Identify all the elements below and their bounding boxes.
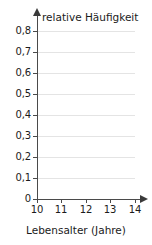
y-tick-mark-0.2 [33, 157, 37, 158]
x-tick-mark-12 [86, 199, 87, 203]
gridline-0.8 [37, 31, 135, 32]
x-axis-arrow-icon [140, 195, 148, 203]
gridline-0.5 [37, 94, 135, 95]
y-axis-title: relative Häufigkeit [42, 11, 138, 23]
x-tick-mark-13 [110, 199, 111, 203]
y-tick-mark-0.7 [33, 52, 37, 53]
plot-area [37, 31, 135, 199]
y-tick-mark-0.3 [33, 136, 37, 137]
x-axis-line [37, 199, 141, 200]
chart-canvas: 0,8 0,7 0,6 0,5 0,4 0,3 0,2 0,1 0 10 11 … [0, 0, 152, 245]
y-tick-label-0.6: 0,6 [15, 68, 31, 78]
gridline-0.3 [37, 136, 135, 137]
y-tick-label-0.1: 0,1 [15, 173, 31, 183]
y-tick-label-0.2: 0,2 [15, 152, 31, 162]
x-tick-mark-10 [37, 199, 38, 203]
y-tick-label-0.4: 0,4 [15, 110, 31, 120]
x-tick-mark-14 [135, 199, 136, 203]
y-tick-mark-0.6 [33, 73, 37, 74]
y-tick-mark-0.8 [33, 31, 37, 32]
x-tick-label-11: 11 [49, 205, 73, 215]
x-tick-mark-11 [61, 199, 62, 203]
y-axis-arrow-icon [33, 8, 41, 16]
x-tick-label-13: 13 [98, 205, 122, 215]
y-tick-label-0: 0 [25, 194, 31, 204]
y-axis-line [37, 14, 38, 200]
x-tick-label-14: 14 [123, 205, 147, 215]
gridline-0.2 [37, 157, 135, 158]
gridline-0.6 [37, 73, 135, 74]
y-tick-label-0.3: 0,3 [15, 131, 31, 141]
y-tick-label-0.8: 0,8 [15, 26, 31, 36]
x-tick-label-10: 10 [25, 205, 49, 215]
gridline-0.7 [37, 52, 135, 53]
x-axis-title: Lebensalter (Jahre) [0, 224, 152, 236]
y-tick-label-0.7: 0,7 [15, 47, 31, 57]
x-tick-label-12: 12 [74, 205, 98, 215]
gridline-0.4 [37, 115, 135, 116]
gridline-0.1 [37, 178, 135, 179]
y-tick-mark-0.4 [33, 115, 37, 116]
y-tick-mark-0.5 [33, 94, 37, 95]
y-tick-mark-0.1 [33, 178, 37, 179]
y-tick-label-0.5: 0,5 [15, 89, 31, 99]
